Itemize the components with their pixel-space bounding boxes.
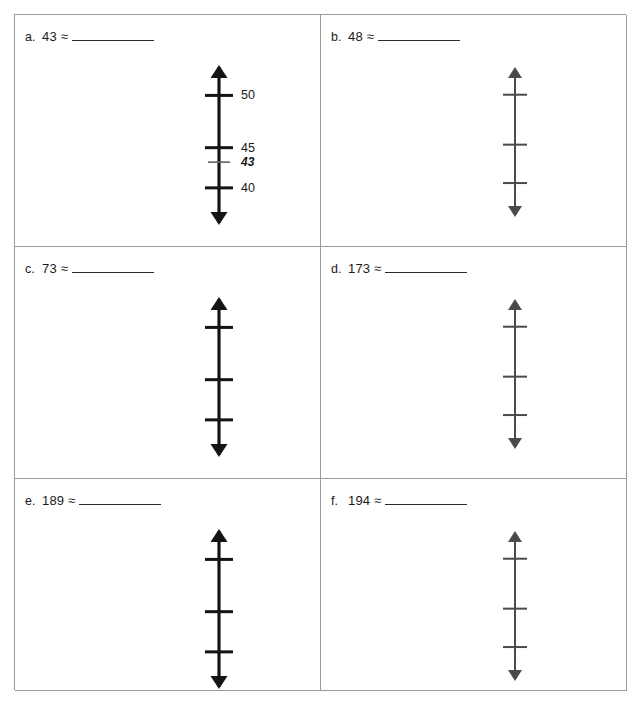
problem-prompt: d.173 ≈ (331, 261, 467, 276)
answer-blank[interactable] (385, 493, 467, 505)
problem-prompt: b.48 ≈ (331, 29, 460, 44)
number-line (481, 295, 591, 453)
problem-expression: 48 ≈ (348, 30, 374, 43)
answer-blank[interactable] (79, 493, 161, 505)
problem-expression: 73 ≈ (42, 262, 68, 275)
problem-cell-d: d.173 ≈ (321, 247, 627, 479)
problem-prompt: a.43 ≈ (25, 29, 154, 44)
number-line: 50454043 (185, 61, 295, 229)
problem-expression: 173 ≈ (348, 262, 381, 275)
problem-prompt: e.189 ≈ (25, 493, 161, 508)
problem-letter: c. (25, 263, 42, 276)
problem-prompt: f.194 ≈ (331, 493, 467, 508)
number-line (481, 63, 591, 221)
problem-letter: b. (331, 31, 348, 44)
problem-letter: f. (331, 495, 348, 508)
problem-cell-f: f.194 ≈ (321, 479, 627, 691)
problem-expression: 43 ≈ (42, 30, 68, 43)
answer-blank[interactable] (385, 261, 467, 273)
number-line (185, 525, 295, 691)
problem-expression: 189 ≈ (42, 494, 75, 507)
problem-grid: a.43 ≈50454043b.48 ≈c.73 ≈d.173 ≈e.189 ≈… (14, 14, 626, 690)
problem-expression: 194 ≈ (348, 494, 381, 507)
number-line (185, 293, 295, 461)
problem-prompt: c.73 ≈ (25, 261, 154, 276)
problem-cell-b: b.48 ≈ (321, 15, 627, 247)
worksheet-page: a.43 ≈50454043b.48 ≈c.73 ≈d.173 ≈e.189 ≈… (0, 0, 639, 708)
number-line (481, 527, 591, 685)
problem-cell-e: e.189 ≈ (15, 479, 321, 691)
problem-letter: e. (25, 495, 42, 508)
problem-cell-c: c.73 ≈ (15, 247, 321, 479)
answer-blank[interactable] (378, 29, 460, 41)
answer-blank[interactable] (72, 261, 154, 273)
answer-blank[interactable] (72, 29, 154, 41)
problem-letter: a. (25, 31, 42, 44)
problem-cell-a: a.43 ≈50454043 (15, 15, 321, 247)
problem-letter: d. (331, 263, 348, 276)
